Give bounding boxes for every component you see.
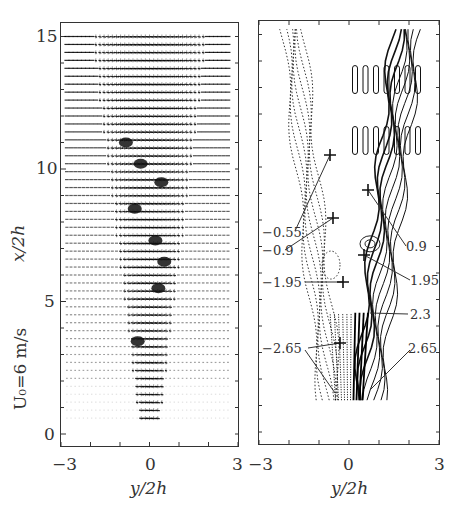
leader-lines [0,0,455,508]
